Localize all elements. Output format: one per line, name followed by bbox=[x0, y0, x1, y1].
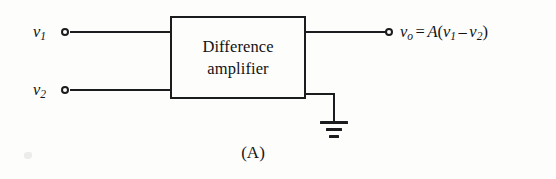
equation-minus: – bbox=[456, 22, 469, 41]
equation-gain: A bbox=[427, 22, 437, 41]
input-2-label: v2 bbox=[33, 80, 46, 100]
ground-lead-horizontal bbox=[304, 93, 335, 95]
ground-bar-3 bbox=[329, 135, 339, 138]
equation-equals: = bbox=[413, 22, 427, 41]
output-terminal[interactable] bbox=[385, 28, 393, 36]
figure-canvas: v1 v2 Difference amplifier vo=A(v1–v2) (… bbox=[0, 0, 556, 179]
input-2-terminal[interactable] bbox=[61, 86, 69, 94]
ground-lead-vertical bbox=[333, 93, 335, 122]
ground-bar-2 bbox=[326, 128, 342, 131]
equation-term2-symbol: v bbox=[469, 22, 476, 41]
block-label-line-2: amplifier bbox=[207, 58, 268, 79]
output-wire bbox=[304, 31, 389, 33]
scan-artifact bbox=[24, 152, 32, 159]
ground-bar-1 bbox=[320, 121, 348, 124]
equation-close-paren: ) bbox=[482, 22, 488, 41]
input-1-subscript: 1 bbox=[40, 30, 46, 42]
input-2-subscript: 2 bbox=[40, 88, 46, 100]
block-label-line-1: Difference bbox=[202, 36, 273, 57]
input-1-terminal[interactable] bbox=[61, 28, 69, 36]
difference-amplifier-block: Difference amplifier bbox=[170, 16, 306, 99]
input-1-wire bbox=[70, 31, 171, 33]
output-equation: vo=A(v1–v2) bbox=[400, 22, 488, 42]
figure-caption: (A) bbox=[0, 143, 506, 163]
input-1-label: v1 bbox=[33, 22, 46, 42]
input-2-wire bbox=[70, 89, 171, 91]
